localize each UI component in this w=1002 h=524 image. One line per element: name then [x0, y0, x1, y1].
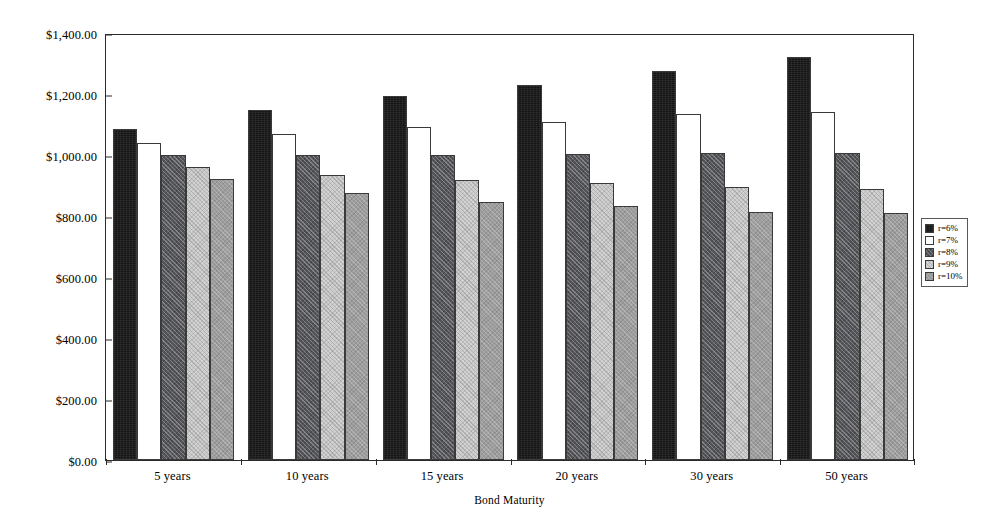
- bar-30-years-r8: [701, 153, 725, 460]
- y-tick-mark: [106, 35, 112, 36]
- y-tick-mark: [106, 96, 112, 97]
- x-axis-separator: [106, 459, 107, 465]
- bar-5-years-r10: [210, 179, 234, 461]
- x-axis-separator: [511, 459, 512, 465]
- y-tick-mark: [106, 340, 112, 341]
- bar-5-years-r7: [137, 143, 161, 461]
- x-tick-label: 15 years: [421, 469, 464, 484]
- bond-value-chart: Value of Bond $0.00$200.00$400.00$600.00…: [0, 0, 1002, 524]
- legend-swatch-icon: [925, 236, 934, 245]
- y-tick-mark: [106, 279, 112, 280]
- legend-label: r=8%: [938, 248, 958, 257]
- bar-15-years-r8: [431, 155, 455, 460]
- y-tick-label: $600.00: [11, 272, 106, 287]
- legend-swatch-icon: [925, 260, 934, 269]
- legend-item-r7[interactable]: r=7%: [925, 235, 963, 246]
- bar-10-years-r10: [345, 193, 369, 460]
- bar-50-years-r9: [860, 189, 884, 460]
- bar-30-years-r7: [676, 114, 700, 460]
- bar-30-years-r10: [749, 212, 773, 460]
- bar-5-years-r9: [186, 167, 210, 460]
- bar-15-years-r9: [455, 180, 479, 460]
- bar-50-years-r7: [811, 112, 835, 460]
- legend-swatch-icon: [925, 248, 934, 257]
- bar-20-years-r6: [517, 85, 541, 460]
- y-tick-label: $1,200.00: [11, 89, 106, 104]
- bar-10-years-r9: [320, 175, 344, 460]
- bar-30-years-r9: [725, 187, 749, 460]
- bar-5-years-r8: [161, 155, 185, 460]
- bar-15-years-r10: [479, 202, 503, 460]
- y-tick-label: $1,000.00: [11, 150, 106, 165]
- y-tick-mark: [106, 218, 112, 219]
- legend-label: r=7%: [938, 236, 958, 245]
- bar-5-years-r6: [113, 129, 137, 460]
- bar-10-years-r8: [296, 155, 320, 460]
- y-tick-label: $400.00: [11, 333, 106, 348]
- bar-10-years-r6: [248, 110, 272, 460]
- bar-20-years-r8: [566, 154, 590, 460]
- y-tick-label: $0.00: [11, 455, 106, 470]
- bar-50-years-r6: [787, 57, 811, 460]
- bar-50-years-r8: [835, 153, 859, 460]
- legend-item-r6[interactable]: r=6%: [925, 223, 963, 234]
- legend-item-r8[interactable]: r=8%: [925, 247, 963, 258]
- x-axis-title: Bond Maturity: [105, 494, 914, 506]
- legend: r=6%r=7%r=8%r=9%r=10%: [921, 218, 968, 287]
- bar-20-years-r10: [614, 206, 638, 460]
- legend-item-r10[interactable]: r=10%: [925, 271, 963, 282]
- x-axis-separator: [780, 459, 781, 465]
- legend-swatch-icon: [925, 224, 934, 233]
- x-axis-separator: [241, 459, 242, 465]
- bar-15-years-r7: [407, 127, 431, 460]
- y-tick-label: $800.00: [11, 211, 106, 226]
- bar-50-years-r10: [884, 213, 908, 460]
- x-tick-label: 5 years: [154, 469, 190, 484]
- x-tick-label: 50 years: [825, 469, 868, 484]
- x-tick-label: 30 years: [690, 469, 733, 484]
- plot-area: Value of Bond $0.00$200.00$400.00$600.00…: [105, 34, 914, 461]
- legend-swatch-icon: [925, 272, 934, 281]
- bar-20-years-r7: [542, 122, 566, 460]
- y-tick-mark: [106, 401, 112, 402]
- legend-label: r=10%: [938, 272, 963, 281]
- y-tick-label: $200.00: [11, 394, 106, 409]
- legend-label: r=9%: [938, 260, 958, 269]
- legend-label: r=6%: [938, 224, 958, 233]
- bar-15-years-r6: [383, 96, 407, 460]
- bar-10-years-r7: [272, 134, 296, 460]
- x-tick-label: 20 years: [556, 469, 599, 484]
- y-tick-label: $1,400.00: [11, 28, 106, 43]
- x-axis-separator: [376, 459, 377, 465]
- y-tick-mark: [106, 157, 112, 158]
- bar-20-years-r9: [590, 183, 614, 460]
- x-axis-separator: [914, 459, 915, 465]
- x-tick-label: 10 years: [286, 469, 329, 484]
- legend-item-r9[interactable]: r=9%: [925, 259, 963, 270]
- x-axis-separator: [645, 459, 646, 465]
- bar-30-years-r6: [652, 71, 676, 460]
